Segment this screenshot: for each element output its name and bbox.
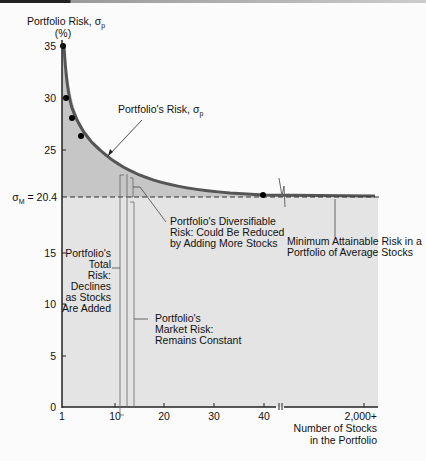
data-point [69, 115, 75, 121]
risk-chart: 35 30 25 15 10 5 0 σM = 20.4 1 10 20 30 … [0, 0, 426, 461]
curve-label-leader [108, 120, 142, 156]
y-tick-label: 10 [44, 298, 56, 310]
x-tick-label: 30 [208, 410, 220, 422]
market-risk-text: Remains Constant [155, 334, 241, 346]
y-tick-label: 0 [50, 401, 56, 413]
data-point [260, 192, 266, 198]
y-tick-label: 30 [44, 92, 56, 104]
x-tick-label: 1 [59, 410, 65, 422]
x-axis-title: Number of Stocks [294, 422, 377, 434]
x-tick-label: 20 [158, 410, 170, 422]
y-axis-unit: (%) [55, 27, 71, 39]
total-risk-label: Are Added [62, 302, 111, 314]
x-tick-label: 2,000+ [345, 410, 377, 422]
market-risk-label: σM = 20.4 [12, 191, 57, 205]
data-point [78, 133, 84, 139]
curve-label: Portfolio's Risk, σp [118, 103, 203, 118]
x-tick-label: 40 [258, 410, 270, 422]
y-tick-label: 25 [44, 144, 56, 156]
x-tick-label: 10 [109, 410, 121, 422]
y-tick-label: 15 [44, 247, 56, 259]
diversifiable-risk-label: by Adding More Stocks [170, 237, 277, 249]
diversifiable-risk-area [62, 46, 375, 197]
x-axis-title: in the Portfolio [310, 434, 377, 446]
y-tick-label: 5 [50, 350, 56, 362]
minimum-risk-label: Portfolio of Average Stocks [287, 246, 413, 258]
arrowhead-icon [108, 149, 113, 156]
y-tick-label: 35 [44, 40, 56, 52]
